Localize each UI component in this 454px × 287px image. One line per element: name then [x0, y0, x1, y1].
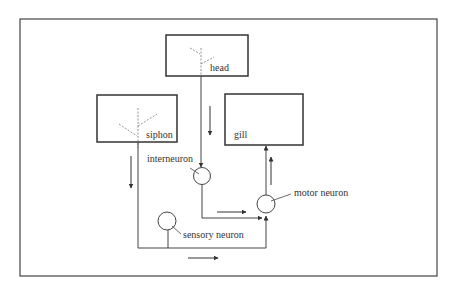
sensory-neuron-label: sensory neuron — [183, 229, 244, 240]
gill-label: gill — [234, 129, 248, 140]
interneuron-motor-line — [202, 185, 262, 218]
sensory-neuron: sensory neuron — [158, 212, 244, 248]
siphon-label: siphon — [146, 129, 173, 140]
siphon-box: siphon — [97, 95, 177, 148]
head-label: head — [210, 62, 229, 73]
neural-circuit-diagram: head siphon gill interneuron sensory neu… — [0, 0, 454, 287]
motor-neuron-label: motor neuron — [294, 187, 348, 198]
gill-box: gill — [225, 94, 303, 145]
head-box: head — [166, 35, 248, 76]
interneuron-label: interneuron — [147, 153, 193, 164]
